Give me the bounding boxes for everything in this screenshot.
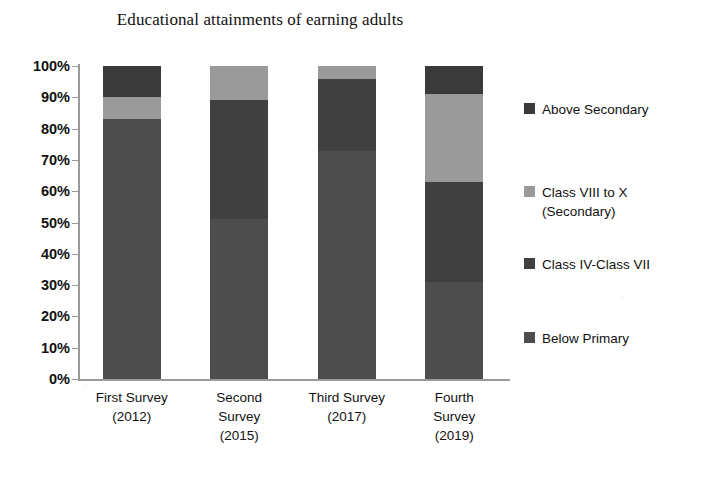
y-axis-tick-label: 100% (8, 58, 70, 74)
bar-segment[interactable] (425, 66, 483, 94)
x-axis-label-line: First Survey (73, 388, 191, 407)
y-axis-tick-label: 90% (8, 89, 70, 105)
legend-swatch-icon (524, 186, 535, 197)
bar-segment[interactable] (318, 79, 376, 151)
bar-segment[interactable] (425, 282, 483, 379)
y-axis-tick (72, 379, 78, 380)
bar-1[interactable] (103, 66, 161, 379)
x-axis-label-4: FourthSurvey(2019) (395, 388, 513, 445)
x-axis-label-line: (2019) (395, 426, 513, 445)
x-axis-label-line: Fourth (395, 388, 513, 407)
x-axis-line (78, 379, 510, 381)
bar-segment[interactable] (210, 66, 268, 100)
bar-segment[interactable] (103, 119, 161, 379)
legend-item[interactable]: Above Secondary (524, 100, 649, 119)
y-axis-tick-label: 20% (8, 308, 70, 324)
x-axis-label-2: SecondSurvey(2015) (180, 388, 298, 445)
y-axis-tick-label: 40% (8, 246, 70, 262)
legend-item[interactable]: Class IV-Class VII (524, 255, 650, 274)
legend-swatch-icon (524, 258, 535, 269)
legend-label: Class IV-Class VII (542, 255, 650, 274)
x-axis-label-line: Third Survey (288, 388, 406, 407)
legend-label: Above Secondary (542, 100, 649, 119)
plot-area (78, 66, 508, 379)
bar-segment[interactable] (103, 66, 161, 97)
chart-title: Educational attainments of earning adult… (0, 10, 520, 30)
x-axis-label-1: First Survey(2012) (73, 388, 191, 426)
y-axis-tick-label: 50% (8, 215, 70, 231)
bar-segment[interactable] (318, 151, 376, 379)
x-axis-label-line: (2017) (288, 407, 406, 426)
bar-segment[interactable] (425, 94, 483, 182)
bar-4[interactable] (425, 66, 483, 379)
x-axis-label-3: Third Survey(2017) (288, 388, 406, 426)
bar-segment[interactable] (318, 66, 376, 79)
legend-label: Below Primary (542, 329, 629, 348)
bar-2[interactable] (210, 66, 268, 379)
legend-swatch-icon (524, 103, 535, 114)
chart-root: Educational attainments of earning adult… (0, 0, 708, 495)
x-axis-label-line: Second (180, 388, 298, 407)
y-axis-tick-label: 10% (8, 340, 70, 356)
legend-swatch-icon (524, 332, 535, 343)
x-axis-label-line: (2012) (73, 407, 191, 426)
x-axis-label-line: (2015) (180, 426, 298, 445)
x-axis-label-line: Survey (180, 407, 298, 426)
y-axis-tick-label: 80% (8, 121, 70, 137)
legend-item[interactable]: Class VIII to X (Secondary) (524, 183, 628, 221)
y-axis-tick-label: 30% (8, 277, 70, 293)
legend-item[interactable]: Below Primary (524, 329, 629, 348)
y-axis-tick-label: 70% (8, 152, 70, 168)
bar-3[interactable] (318, 66, 376, 379)
bar-segment[interactable] (210, 100, 268, 219)
y-axis-tick-label: 0% (8, 371, 70, 387)
bar-segment[interactable] (425, 182, 483, 282)
bar-segment[interactable] (210, 219, 268, 379)
legend-label: Class VIII to X (Secondary) (542, 183, 628, 221)
x-axis-label-line: Survey (395, 407, 513, 426)
bar-segment[interactable] (103, 97, 161, 119)
y-axis-tick-label: 60% (8, 183, 70, 199)
